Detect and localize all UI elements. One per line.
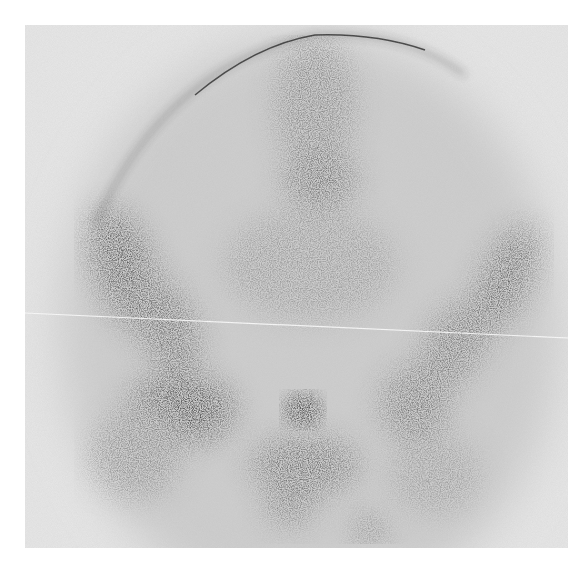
scintigraphy-canvas xyxy=(25,25,568,548)
film-grain xyxy=(25,25,568,548)
bone-scan-image: Grayscale gamma-camera image of the pelv… xyxy=(25,25,568,548)
